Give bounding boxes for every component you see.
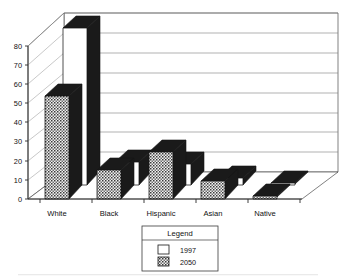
y-tick-label-60: 60 bbox=[14, 80, 22, 89]
bar-side bbox=[87, 16, 100, 185]
y-axis: 80 70 60 50 40 30 20 10 0 bbox=[14, 42, 28, 204]
bar-chart-figure: 80 70 60 50 40 30 20 10 0 bbox=[0, 0, 346, 279]
x-label-white: White bbox=[47, 209, 66, 218]
chart-canvas: 80 70 60 50 40 30 20 10 0 bbox=[0, 0, 346, 279]
bar-front bbox=[149, 152, 173, 199]
y-tick-label-10: 10 bbox=[14, 176, 22, 185]
legend-swatch-2050[interactable] bbox=[158, 257, 169, 266]
y-tick-label-30: 30 bbox=[14, 137, 22, 146]
bar-front bbox=[97, 170, 121, 199]
y-tick-label-80: 80 bbox=[14, 42, 22, 51]
bar-2050-hispanic bbox=[149, 140, 186, 199]
bar-2050-white bbox=[45, 84, 82, 199]
y-tick-label-20: 20 bbox=[14, 157, 22, 166]
x-label-black: Black bbox=[100, 209, 119, 218]
bar-front bbox=[45, 96, 69, 199]
legend-label-1997: 1997 bbox=[180, 246, 196, 255]
y-tick-label-50: 50 bbox=[14, 99, 22, 108]
bar-side bbox=[69, 84, 82, 199]
y-tick-label-40: 40 bbox=[14, 118, 22, 127]
scan-artifact bbox=[18, 274, 318, 275]
y-tick-label-70: 70 bbox=[14, 61, 22, 70]
legend-title: Legend bbox=[167, 229, 192, 238]
x-label-asian: Asian bbox=[204, 209, 223, 218]
chart-legend: Legend 1997 2050 bbox=[142, 226, 218, 271]
y-tick-label-0: 0 bbox=[18, 195, 22, 204]
x-label-hispanic: Hispanic bbox=[146, 209, 175, 218]
x-label-native: Native bbox=[254, 209, 276, 218]
bar-front bbox=[201, 181, 225, 199]
legend-swatch-1997[interactable] bbox=[158, 245, 169, 254]
plot-back-wall bbox=[64, 13, 338, 172]
legend-label-2050: 2050 bbox=[180, 258, 196, 267]
x-axis: White Black Hispanic Asian Native bbox=[28, 199, 302, 218]
